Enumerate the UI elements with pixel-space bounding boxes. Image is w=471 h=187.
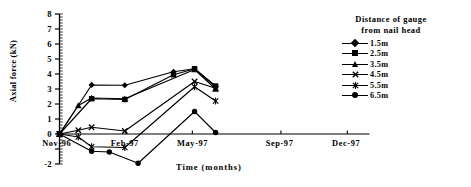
legend-marker-circle-icon (342, 91, 368, 101)
legend-title-line2: from nail head (316, 25, 466, 36)
y-tick-label: 0 (36, 129, 52, 139)
legend-item-5.5m: 5.5m (342, 80, 466, 91)
y-tick-label: -2 (36, 159, 52, 169)
x-tick-label: Feb-97 (111, 139, 139, 148)
legend-item-6.5m: 6.5m (342, 91, 466, 102)
x-tick-label: Dec-97 (332, 139, 360, 148)
legend-title: Distance of gauge from nail head (316, 14, 466, 35)
legend-item-label: 2.5m (368, 49, 388, 58)
legend-marker-x-icon (342, 70, 368, 80)
series-6.5m (57, 109, 219, 166)
y-tick-label: 6 (36, 39, 52, 49)
y-tick-label: 3 (36, 84, 52, 94)
legend-item-label: 1.5m (368, 39, 388, 48)
chart-figure: 876543210-2 Axial force (kN) Nov-96Feb-9… (0, 0, 471, 187)
x-tick-label: Sep-97 (266, 139, 294, 148)
legend-item-label: 3.5m (368, 60, 388, 69)
legend-item-4.5m: 4.5m (342, 70, 466, 81)
legend-item-label: 6.5m (368, 91, 388, 100)
legend-title-line1: Distance of gauge (316, 14, 466, 25)
y-tick-label: 4 (36, 69, 52, 79)
legend-marker-square-icon (342, 49, 368, 59)
legend: Distance of gauge from nail head 1.5m2.5… (316, 14, 466, 101)
x-tick-label: May-97 (177, 139, 208, 148)
y-tick-label: 5 (36, 54, 52, 64)
legend-item-label: 5.5m (368, 81, 388, 90)
legend-marker-star-icon (342, 80, 368, 90)
y-tick-label: 8 (36, 9, 52, 19)
legend-item-label: 4.5m (368, 70, 388, 79)
x-tick-label: Nov-96 (42, 139, 71, 148)
legend-item-2.5m: 2.5m (342, 49, 466, 60)
legend-item-3.5m: 3.5m (342, 59, 466, 70)
legend-marker-triangle-icon (342, 59, 368, 69)
y-tick-label: 7 (36, 24, 52, 34)
legend-marker-diamond-icon (342, 38, 368, 48)
data-series-group (56, 66, 219, 166)
legend-item-1.5m: 1.5m (342, 38, 466, 49)
y-tick-label: 1 (36, 114, 52, 124)
y-tick-label: 2 (36, 99, 52, 109)
y-axis-title: Axial force (kN) (8, 24, 18, 118)
series-1.5m (56, 66, 218, 137)
x-axis-title: Time (months) (176, 162, 242, 172)
legend-items: 1.5m2.5m3.5m4.5m5.5m6.5m (316, 38, 466, 101)
